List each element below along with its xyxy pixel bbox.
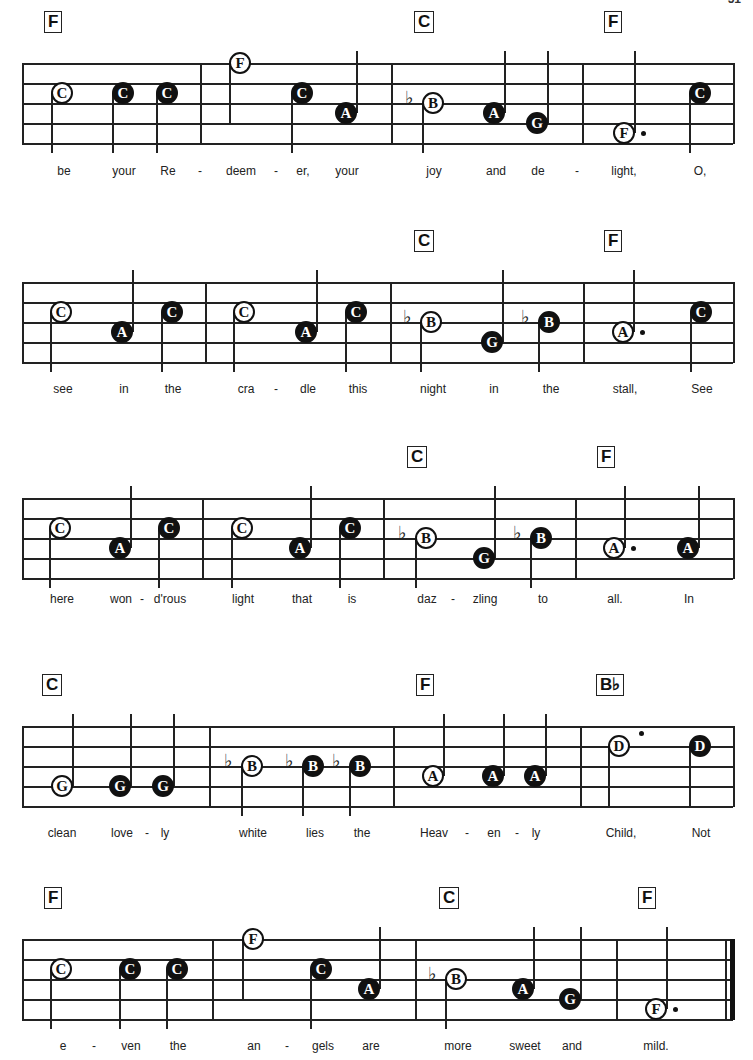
- flat-icon: ♭: [428, 965, 437, 983]
- lyric-syllable: the: [170, 1039, 187, 1053]
- staff-line: [22, 939, 733, 941]
- note-b: B: [445, 968, 467, 990]
- final-barline: [730, 939, 735, 1020]
- note-stem: [50, 969, 52, 1029]
- note-stem: [379, 927, 381, 989]
- lyric-syllable: more: [444, 1039, 471, 1053]
- note-stem: [580, 927, 582, 999]
- lyric-syllable: sweet: [509, 1039, 540, 1053]
- lyric-syllable: an: [247, 1039, 260, 1053]
- lyric-syllable: -: [92, 1039, 96, 1053]
- lyric-syllable: ven: [121, 1039, 140, 1053]
- chord-symbol: F: [638, 887, 656, 909]
- staff-line: [22, 999, 733, 1001]
- lyric-syllable: -: [285, 1039, 289, 1053]
- staff-line: [22, 1019, 733, 1021]
- note-f: F: [242, 928, 264, 950]
- barline: [725, 939, 727, 1020]
- note-c: C: [119, 958, 141, 980]
- chord-symbol: C: [439, 887, 459, 909]
- note-stem: [119, 969, 121, 1029]
- note-f: F: [645, 998, 667, 1020]
- barline: [616, 939, 618, 1020]
- lyric-syllable: and: [562, 1039, 582, 1053]
- chord-symbol: F: [44, 887, 62, 909]
- lyric-syllable: e: [60, 1039, 67, 1053]
- note-c: C: [166, 958, 188, 980]
- barline: [212, 939, 214, 1020]
- note-a: A: [358, 978, 380, 1000]
- note-stem: [445, 979, 447, 1029]
- note-stem: [666, 927, 668, 1009]
- note-stem: [533, 927, 535, 989]
- barline: [415, 939, 417, 1020]
- note-c: C: [310, 958, 332, 980]
- staff-system: FCFCCCFCA♭BAGFe-venthean-gelsaremoreswee…: [0, 0, 753, 1060]
- note-stem: [242, 939, 244, 999]
- note-a: A: [512, 978, 534, 1000]
- note-g: G: [559, 988, 581, 1010]
- lyric-syllable: gels: [312, 1039, 334, 1053]
- note-c: C: [50, 958, 72, 980]
- note-stem: [310, 969, 312, 1029]
- lyric-syllable: mild.: [643, 1039, 668, 1053]
- barline: [22, 939, 24, 1020]
- lyric-syllable: are: [362, 1039, 379, 1053]
- note-stem: [166, 969, 168, 1029]
- dot-icon: [673, 1007, 678, 1012]
